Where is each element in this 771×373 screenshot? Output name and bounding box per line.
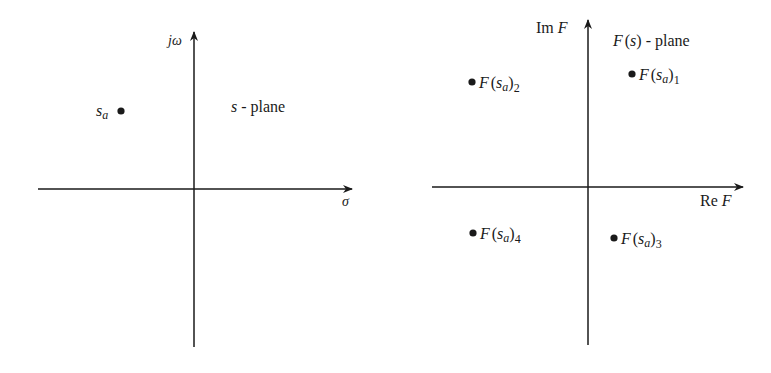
s-plane-horizontal-axis-label: σ xyxy=(342,194,350,209)
im-prefix: Im xyxy=(536,19,558,36)
f-s-a-3-label: F(sa)3 xyxy=(620,230,662,251)
f-plane-title-rest: - plane xyxy=(642,32,690,50)
complex-plane-mapping-diagram: jω σ s - plane sa Im F Re F F(s) - plane xyxy=(0,0,771,373)
func: F xyxy=(478,74,489,91)
func: F xyxy=(620,230,631,247)
index-sub: 4 xyxy=(515,232,521,246)
f-plane-horizontal-axis-label: Re F xyxy=(700,192,732,209)
s-a-dot xyxy=(117,107,124,114)
s-plane-title: s - plane xyxy=(231,98,285,116)
f-s-a-4-dot xyxy=(469,229,476,236)
f-s-plane-diagram: Im F Re F F(s) - plane F(sa)1 F(sa)2 F xyxy=(432,19,743,345)
f-s-a-3-point: F(sa)3 xyxy=(610,230,661,251)
s-plane-title-rest: - plane xyxy=(237,98,285,116)
index-sub: 1 xyxy=(674,73,680,87)
f-s-a-2-label: F(sa)2 xyxy=(478,74,520,95)
s-plane-diagram: jω σ s - plane sa xyxy=(38,32,352,347)
f-s-a-4-label: F(sa)4 xyxy=(479,225,521,246)
index-sub: 3 xyxy=(656,237,662,251)
s-a-point: sa xyxy=(96,102,125,122)
s-plane-vertical-axis-label: jω xyxy=(166,33,182,48)
s-a-label-sub: a xyxy=(102,108,108,122)
f-s-a-1-label: F(sa)1 xyxy=(638,66,680,87)
s-a-label: sa xyxy=(96,102,108,122)
f-s-a-2-point: F(sa)2 xyxy=(468,74,519,95)
f-s-a-3-dot xyxy=(610,234,617,241)
re-prefix: Re xyxy=(700,192,722,209)
re-var: F xyxy=(721,192,732,209)
func: F xyxy=(638,66,649,83)
index-sub: 2 xyxy=(514,81,520,95)
f-s-a-1-point: F(sa)1 xyxy=(628,66,679,87)
func: F xyxy=(479,225,490,242)
f-plane-vertical-axis-label: Im F xyxy=(536,19,568,36)
f-s-a-4-point: F(sa)4 xyxy=(469,225,520,246)
f-s-a-2-dot xyxy=(468,78,475,85)
f-plane-title-func: F xyxy=(612,32,623,49)
im-var: F xyxy=(557,19,568,36)
f-s-a-1-dot xyxy=(628,70,635,77)
f-plane-title: F(s) - plane xyxy=(612,32,690,50)
